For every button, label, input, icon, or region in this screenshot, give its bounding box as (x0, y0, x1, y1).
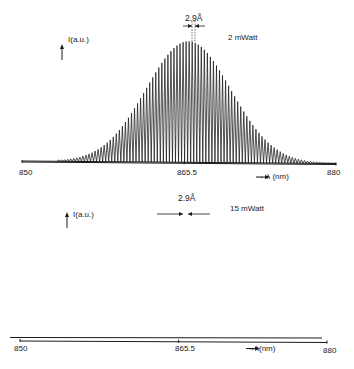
x-axis-label: →λ(nm) (247, 344, 275, 353)
mode-comb-trace (57, 41, 336, 163)
x-tick-880: 880 (327, 168, 340, 177)
x-tick-880: 880 (323, 346, 336, 355)
y-axis-label: I(a.u.) (68, 35, 89, 44)
spectrum-plot-15mw (0, 185, 354, 369)
x-tick-865-5: 865.5 (177, 168, 197, 177)
spectrum-panel-15mw: I(a.u.) 2.9Å 15 mWatt 850 865.5 880 →λ(n… (0, 185, 354, 369)
x-axis-label: → λ (nm) (256, 172, 289, 181)
spacing-arrow-icon (195, 24, 199, 28)
arrow-up-icon (60, 44, 64, 49)
x-tick-850: 850 (14, 344, 27, 353)
x-tick-850: 850 (19, 168, 32, 177)
spacing-arrow-icon (188, 24, 192, 28)
power-label: 15 mWatt (230, 204, 264, 213)
x-tick-865-5: 865.5 (175, 344, 195, 353)
arrow-up-icon (65, 212, 69, 217)
power-label: 2 mWatt (228, 33, 257, 42)
spacing-arrow-icon (188, 212, 192, 216)
y-axis-label: I(a.u.) (73, 210, 94, 219)
x-axis (20, 341, 327, 343)
spectrum-plot-2mw (0, 0, 354, 185)
spacing-arrow-icon (179, 212, 183, 216)
mode-spacing-label: 2.9Å (178, 193, 196, 203)
mode-spacing-label: 2.9Å (185, 13, 203, 23)
spectrum-baseline (10, 337, 322, 338)
spectrum-panel-2mw: I(a.u.) 2.9Å 2 mWatt 850 865.5 880 → λ (… (0, 0, 354, 185)
